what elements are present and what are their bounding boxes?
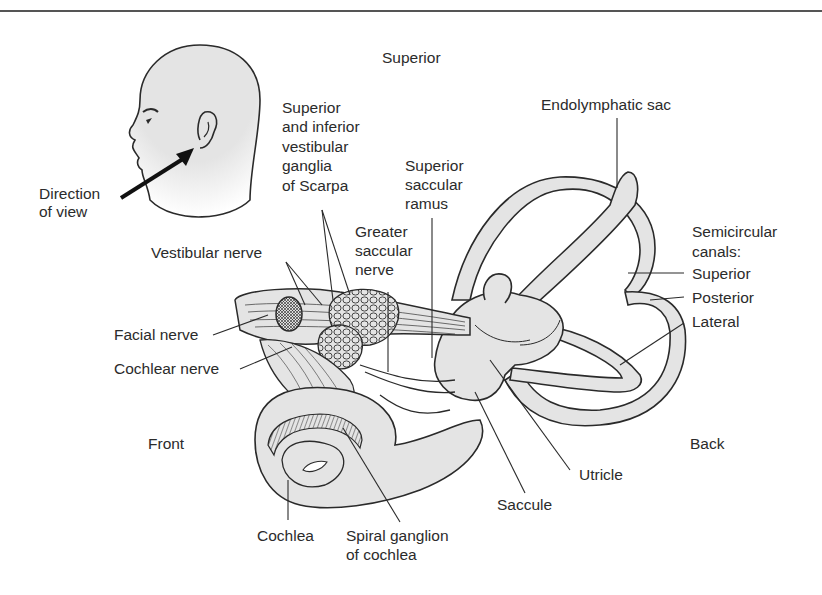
label-greater-saccular-2: saccular: [355, 241, 413, 260]
label-greater-saccular-3: nerve: [355, 260, 394, 279]
facial-nerve-cross-section: [276, 297, 302, 331]
label-superior-saccular-2: saccular: [405, 175, 463, 194]
label-vestibular-nerve: Vestibular nerve: [151, 243, 262, 262]
label-scarpa-4: ganglia: [282, 156, 332, 175]
head-profile-icon: [129, 45, 260, 217]
direction-of-view-label-1: Direction: [39, 184, 100, 203]
orientation-front: Front: [148, 434, 184, 453]
label-saccule: Saccule: [497, 495, 552, 514]
label-utricle: Utricle: [579, 465, 623, 484]
cochlea-illustration: [255, 388, 483, 508]
label-canal-posterior: Posterior: [692, 288, 754, 307]
label-scarpa-1: Superior: [282, 98, 341, 117]
label-cochlear-nerve: Cochlear nerve: [114, 359, 219, 378]
orientation-superior: Superior: [382, 48, 441, 67]
label-spiral-ganglion-2: of cochlea: [346, 545, 417, 564]
label-facial-nerve: Facial nerve: [114, 325, 198, 344]
label-superior-saccular-3: ramus: [405, 194, 448, 213]
label-semicircular-1: Semicircular: [692, 222, 777, 241]
label-canal-superior: Superior: [692, 264, 751, 283]
semicircular-canals: [435, 172, 686, 426]
direction-of-view-label-2: of view: [39, 202, 87, 221]
label-endolymphatic-sac: Endolymphatic sac: [541, 95, 671, 114]
label-canal-lateral: Lateral: [692, 312, 739, 331]
label-cochlea: Cochlea: [257, 526, 314, 545]
label-semicircular-2: canals:: [692, 242, 741, 261]
label-scarpa-5: of Scarpa: [282, 176, 348, 195]
label-spiral-ganglion-1: Spiral ganglion: [346, 526, 449, 545]
label-greater-saccular-1: Greater: [355, 222, 408, 241]
label-scarpa-3: vestibular: [282, 137, 348, 156]
label-superior-saccular-1: Superior: [405, 156, 464, 175]
orientation-back: Back: [690, 434, 724, 453]
label-scarpa-2: and inferior: [282, 117, 360, 136]
